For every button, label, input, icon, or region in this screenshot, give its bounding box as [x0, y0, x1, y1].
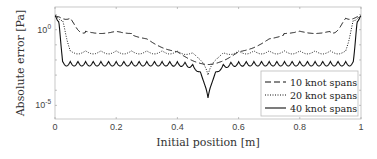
- x-tick-label: 0.6: [232, 122, 245, 132]
- x-tick-label: 1: [358, 122, 363, 132]
- y-tick-label: 100: [37, 23, 51, 35]
- x-tick-label: 0.4: [171, 122, 184, 132]
- legend-item: 20 knot spans: [290, 90, 357, 101]
- x-axis-label: Initial position [m]: [156, 136, 259, 149]
- x-tick-label: 0.8: [294, 122, 307, 132]
- error-chart: 00.20.40.60.81 10010-5 Initial position …: [0, 0, 377, 159]
- y-axis-label: Absolute error [Pa]: [14, 10, 27, 118]
- x-tick-label: 0.2: [110, 122, 123, 132]
- legend: 10 knot spans20 knot spans40 knot spans: [261, 71, 358, 116]
- y-tick-label: 10-5: [35, 98, 51, 110]
- legend-item: 40 knot spans: [290, 103, 357, 114]
- x-tick-label: 0: [52, 122, 57, 132]
- legend-item: 10 knot spans: [290, 77, 357, 88]
